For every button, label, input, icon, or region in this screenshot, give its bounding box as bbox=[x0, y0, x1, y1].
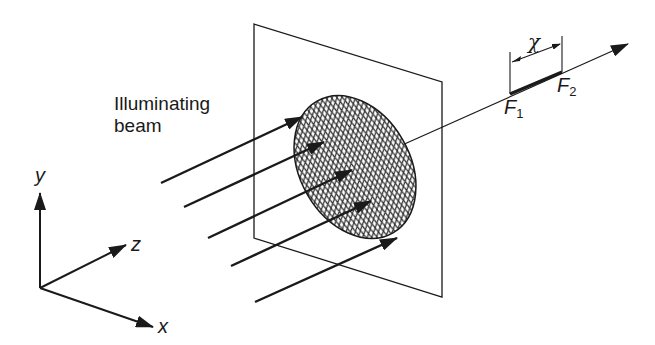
coordinate-axes bbox=[40, 193, 153, 327]
separation-chi-label: χ bbox=[528, 32, 540, 52]
f1-letter: F bbox=[504, 96, 516, 118]
focus-f2-label: F2 bbox=[557, 75, 576, 98]
beam-arrow-5 bbox=[255, 238, 397, 302]
f2-subscript: 2 bbox=[569, 84, 576, 99]
diagram-canvas: Illuminating beam y z x χ F1 F2 bbox=[0, 0, 655, 345]
y-axis-label: y bbox=[35, 165, 45, 185]
diagram-graphics bbox=[0, 0, 655, 345]
f1-subscript: 1 bbox=[516, 106, 523, 121]
beam-label-line2: beam bbox=[114, 115, 210, 137]
focus-f1-label: F1 bbox=[504, 97, 523, 120]
x-axis-label: x bbox=[158, 316, 168, 336]
illuminating-beam-label: Illuminating beam bbox=[114, 93, 210, 137]
f2-letter: F bbox=[557, 74, 569, 96]
z-axis-arrow bbox=[40, 245, 126, 288]
beam-label-line1: Illuminating bbox=[114, 93, 210, 115]
optical-axis bbox=[400, 44, 628, 146]
hatched-aperture bbox=[269, 74, 440, 261]
z-axis-label: z bbox=[131, 234, 141, 254]
x-axis-arrow bbox=[40, 288, 153, 327]
